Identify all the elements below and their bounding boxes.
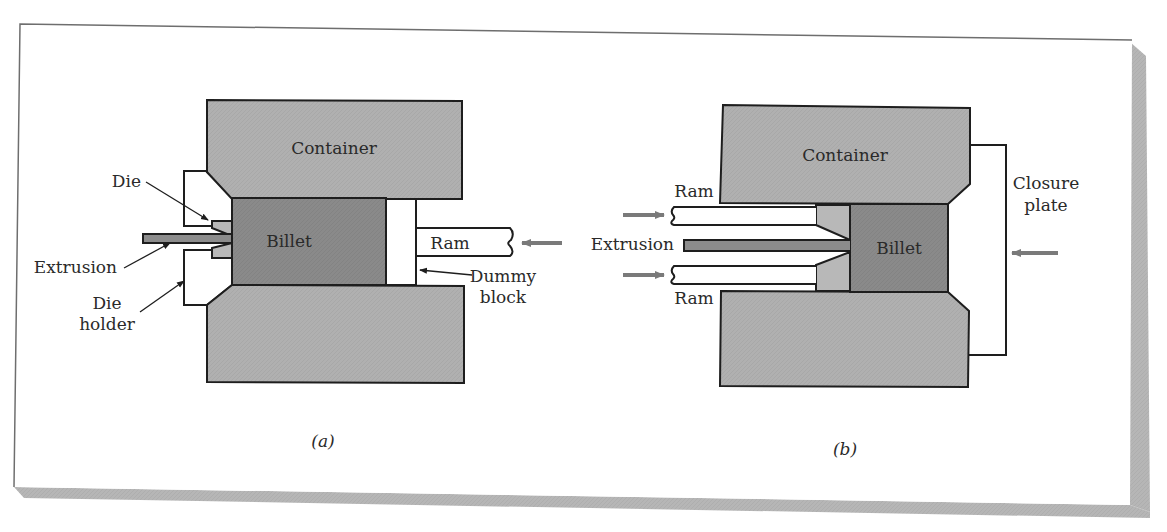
label-ram-a: Ram (430, 233, 469, 253)
extrusion-a (143, 234, 232, 243)
extrusion-b (684, 240, 850, 251)
ram-upper-b (671, 207, 816, 225)
label-extrusion-b: Extrusion (591, 234, 674, 254)
label-ram-top-b: Ram (674, 181, 713, 201)
ram-lower-b (671, 266, 816, 284)
container-bottom-a (207, 285, 464, 383)
label-ram-bottom-b: Ram (674, 288, 713, 308)
label-container-a: Container (291, 138, 378, 158)
label-container-b: Container (802, 145, 889, 165)
label-die-holder-1: Die (92, 293, 121, 313)
label-die: Die (112, 171, 141, 191)
label-billet-b: Billet (876, 238, 922, 258)
label-dummy-block-1: Dummy (470, 266, 537, 286)
figure-frame (14, 24, 1132, 505)
caption-a: (a) (311, 431, 334, 451)
label-extrusion-a: Extrusion (34, 257, 117, 277)
container-bottom-b (720, 291, 969, 387)
label-die-holder-2: holder (79, 314, 136, 334)
extrusion-diagram-figure: Container Billet Ram Die Extrusion Die h… (0, 0, 1167, 532)
caption-b: (b) (833, 439, 857, 459)
dummy-block (386, 199, 416, 285)
label-closure-plate-1: Closure (1013, 173, 1080, 193)
label-billet-a: Billet (266, 231, 312, 251)
label-closure-plate-2: plate (1024, 195, 1067, 215)
label-dummy-block-2: block (480, 287, 527, 307)
